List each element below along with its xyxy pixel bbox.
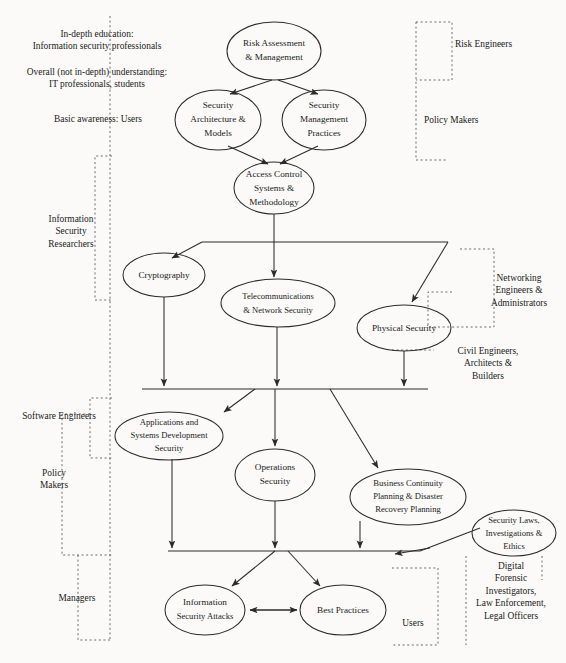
annotation-overall-understanding: Overall (not in-depth) understanding: IT… xyxy=(2,66,192,91)
node-access-control[interactable]: Access Control Systems & Methodology xyxy=(234,162,314,214)
node-cryptography-label: Cryptography xyxy=(138,270,189,280)
annotation-policy-makers-left: Policy Makers xyxy=(28,467,80,492)
node-risk-assessment-label-2: & Management xyxy=(245,52,303,62)
annotation-networking-engineers: Networking Engineers & Administrators xyxy=(473,272,565,309)
annotation-policy-makers-right: Policy Makers xyxy=(424,114,524,126)
node-information-security-attacks[interactable]: Information Security Attacks xyxy=(165,585,245,635)
node-business-continuity-label-3: Recovery Planning xyxy=(375,504,441,514)
node-security-laws-label-1: Security Laws, xyxy=(488,515,540,525)
node-security-laws[interactable]: Security Laws, Investigations & Ethics xyxy=(472,510,556,556)
node-security-architecture-label-2: Architecture & xyxy=(190,114,245,124)
node-security-management-label-2: Management xyxy=(300,114,348,124)
node-telecommunications-label-1: Telecommunications xyxy=(242,291,314,301)
annotation-users-bottom: Users xyxy=(391,617,435,629)
node-applications-development-label-3: Security xyxy=(155,443,184,453)
node-business-continuity-label-2: Planning & Disaster xyxy=(373,491,443,501)
node-security-laws-label-2: Investigations & xyxy=(485,528,542,538)
node-best-practices-label: Best Practices xyxy=(317,605,369,615)
node-physical-security[interactable]: Physical Security xyxy=(357,305,451,351)
annotation-basic-awareness: Basic awareness: Users xyxy=(28,113,168,125)
node-access-control-label-1: Access Control xyxy=(246,169,303,179)
node-business-continuity-label-1: Business Continuity xyxy=(373,478,443,488)
node-operations-security-label-1: Operations xyxy=(255,462,296,472)
annotation-info-sec-researchers: Information Security Researchers xyxy=(38,213,104,250)
node-security-management[interactable]: Security Management Practices xyxy=(282,90,366,150)
node-risk-assessment[interactable]: Risk Assessment & Management xyxy=(227,22,321,80)
node-security-architecture-label-1: Security xyxy=(203,100,234,110)
annotation-in-depth-education: In-depth education: Information security… xyxy=(8,28,186,53)
node-risk-assessment-label-1: Risk Assessment xyxy=(243,38,305,48)
node-applications-development-label-2: Systems Development xyxy=(130,430,208,440)
node-best-practices[interactable]: Best Practices xyxy=(300,585,386,635)
node-security-architecture-label-3: Models xyxy=(204,128,232,138)
node-security-management-label-1: Security xyxy=(309,100,340,110)
node-applications-development[interactable]: Applications and Systems Development Sec… xyxy=(115,412,223,460)
node-business-continuity[interactable]: Business Continuity Planning & Disaster … xyxy=(350,469,466,525)
diagram-canvas: Risk Assessment & Management Security Ar… xyxy=(0,0,566,663)
node-physical-security-label: Physical Security xyxy=(372,323,436,333)
node-operations-security-label-2: Security xyxy=(260,476,291,486)
node-cryptography[interactable]: Cryptography xyxy=(123,253,205,297)
node-information-security-attacks-label-1: Information xyxy=(183,597,227,607)
annotation-digital-forensics: Digital Forensic Investigators, Law Enfo… xyxy=(459,560,563,622)
node-telecommunications[interactable]: Telecommunications & Network Security xyxy=(221,279,335,327)
node-access-control-label-3: Methodology xyxy=(249,197,299,207)
annotation-software-engineers: Software Engineers xyxy=(12,410,106,422)
node-applications-development-label-1: Applications and xyxy=(140,417,199,427)
node-operations-security[interactable]: Operations Security xyxy=(235,449,315,501)
node-security-architecture[interactable]: Security Architecture & Models xyxy=(175,90,261,150)
annotation-risk-engineers: Risk Engineers xyxy=(455,38,555,50)
node-security-management-label-3: Practices xyxy=(307,128,341,138)
node-telecommunications-label-2: & Network Security xyxy=(243,305,313,315)
annotation-civil-engineers: Civil Engineers, Architects & Builders xyxy=(440,345,536,382)
node-security-laws-label-3: Ethics xyxy=(503,541,525,551)
node-access-control-label-2: Systems & xyxy=(254,183,294,193)
node-information-security-attacks-label-2: Security Attacks xyxy=(177,611,234,621)
annotation-managers: Managers xyxy=(48,592,106,604)
